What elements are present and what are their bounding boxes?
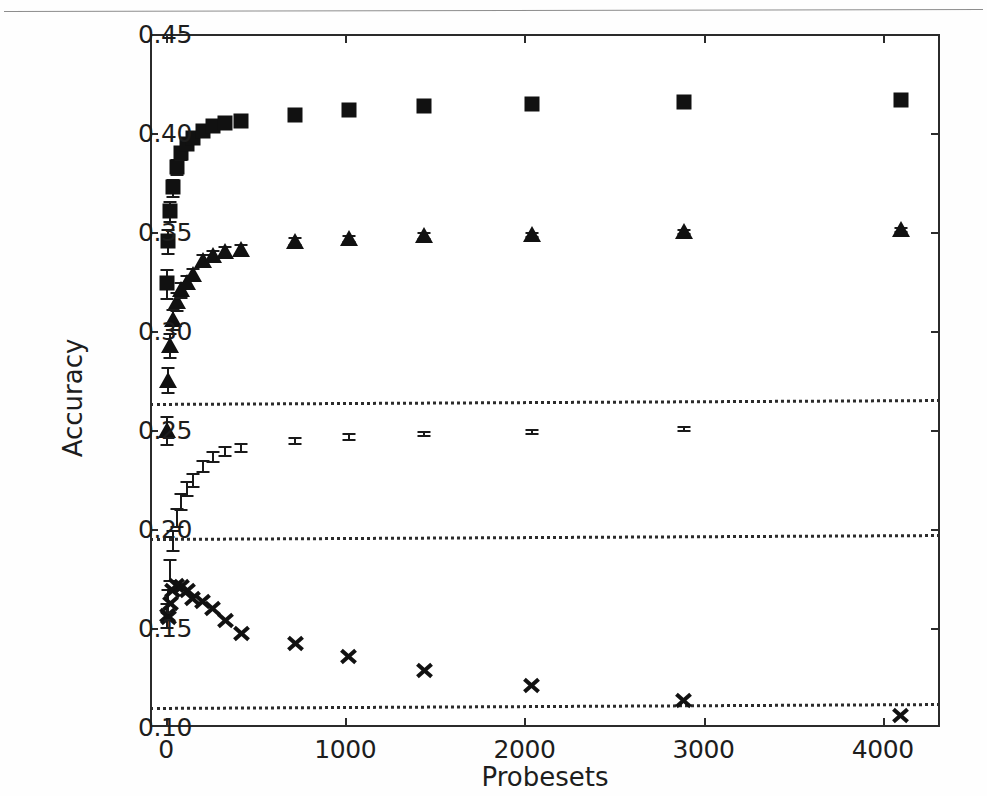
- error-bar-cap: [219, 455, 232, 457]
- x-tick-label: 0: [158, 735, 174, 764]
- error-bar-cap: [186, 473, 199, 475]
- error-bar-cap: [186, 486, 199, 488]
- error-bar-cap: [175, 297, 188, 299]
- reference-line-lower-baseline: [150, 703, 940, 710]
- error-bar-cap: [525, 433, 538, 435]
- x-tick-mark-top: [704, 34, 706, 43]
- y-tick-mark-right: [931, 628, 940, 630]
- error-bar-cap: [342, 439, 355, 441]
- x-tick-mark-top: [883, 34, 885, 43]
- y-axis-title: Accuracy: [58, 339, 88, 458]
- y-tick-mark-right: [931, 34, 940, 36]
- data-point-square: [234, 114, 249, 129]
- error-bar-cap: [525, 429, 538, 431]
- data-point-square: [169, 159, 184, 174]
- error-bar: [186, 481, 188, 495]
- data-point-triangle: [232, 241, 250, 257]
- data-point-triangle: [523, 226, 541, 242]
- error-bar-cap: [164, 357, 177, 359]
- data-point-triangle: [286, 233, 304, 249]
- error-bar-cap: [162, 253, 175, 255]
- reference-line-upper-baseline: [150, 399, 940, 406]
- x-tick-label: 3000: [673, 735, 735, 764]
- data-point-x: [892, 707, 909, 724]
- data-point-x: [217, 612, 234, 629]
- error-bar-cap: [219, 446, 232, 448]
- y-tick-mark-right: [931, 529, 940, 531]
- x-tick-mark: [704, 718, 706, 727]
- y-tick-mark-right: [931, 232, 940, 234]
- error-bar-cap: [175, 509, 188, 511]
- error-bar-cap: [235, 443, 248, 445]
- error-bar-cap: [166, 196, 179, 198]
- error-bar-cap: [206, 451, 219, 453]
- data-point-triangle: [340, 230, 358, 246]
- x-tick-label: 2000: [493, 735, 555, 764]
- data-point-x: [287, 635, 304, 652]
- error-bar-cap: [181, 495, 194, 497]
- error-bar-cap: [677, 426, 690, 428]
- data-point-triangle: [892, 221, 910, 237]
- error-bar-cap: [170, 310, 183, 312]
- x-tick-label: 1000: [314, 735, 376, 764]
- error-bar-cap: [166, 550, 179, 552]
- data-series-layer: [150, 34, 940, 340]
- error-bar-cap: [196, 471, 209, 473]
- x-tick-mark: [345, 718, 347, 727]
- data-point-square: [163, 204, 178, 219]
- y-tick-mark-right: [931, 430, 940, 432]
- data-point-square: [524, 97, 539, 112]
- error-bar-cap: [161, 269, 174, 271]
- data-point-x: [675, 692, 692, 709]
- data-point-square: [288, 108, 303, 123]
- data-point-triangle: [415, 227, 433, 243]
- x-tick-mark-top: [345, 34, 347, 43]
- data-point-x: [416, 662, 433, 679]
- data-point-square: [676, 95, 691, 110]
- y-tick-mark-right: [931, 133, 940, 135]
- error-bar-cap: [342, 433, 355, 435]
- data-point-x: [523, 677, 540, 694]
- x-tick-mark: [524, 718, 526, 727]
- x-tick-mark-top: [524, 34, 526, 43]
- error-bar-cap: [170, 174, 183, 176]
- data-point-square: [417, 99, 432, 114]
- data-point-x: [233, 625, 250, 642]
- reference-line-middle-baseline: [150, 534, 940, 541]
- error-bar-cap: [289, 437, 302, 439]
- data-point-triangle: [159, 372, 177, 388]
- error-bar-cap: [162, 367, 175, 369]
- data-point-x: [340, 648, 357, 665]
- error-bar-cap: [206, 461, 219, 463]
- data-point-square: [893, 93, 908, 108]
- plot-area: [150, 34, 940, 727]
- figure-page: Accuracy Probesets 0.100.150.200.250.300…: [0, 0, 987, 796]
- data-point-square: [165, 180, 180, 195]
- y-tick-mark-right: [931, 331, 940, 333]
- error-bar-cap: [164, 559, 177, 561]
- x-tick-label: 4000: [852, 735, 914, 764]
- data-point-square: [341, 103, 356, 118]
- x-tick-mark: [883, 718, 885, 727]
- error-bar-cap: [235, 451, 248, 453]
- data-point-triangle: [184, 266, 202, 282]
- error-bar-cap: [162, 392, 175, 394]
- data-point-square: [218, 116, 233, 131]
- data-point-triangle: [675, 223, 693, 239]
- x-axis-title: Probesets: [481, 762, 608, 792]
- accuracy-vs-probesets-chart: Accuracy Probesets 0.100.150.200.250.300…: [0, 0, 987, 796]
- error-bar-cap: [677, 430, 690, 432]
- error-bar-cap: [418, 435, 431, 437]
- error-bar-cap: [289, 443, 302, 445]
- error-bar-cap: [418, 431, 431, 433]
